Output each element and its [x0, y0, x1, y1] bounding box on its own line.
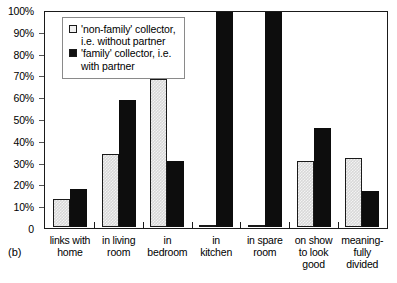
- y-axis-tick-label: 30%: [14, 159, 34, 169]
- bar: [314, 128, 331, 227]
- x-axis-category-label: on show to look good: [289, 234, 338, 270]
- x-axis-category-label: links with home: [46, 234, 95, 270]
- group-separator-tick: [338, 222, 339, 228]
- bar: [70, 189, 87, 228]
- bar: [297, 161, 314, 228]
- legend-swatch-light: [69, 25, 77, 33]
- y-axis-tick-label: 50%: [14, 115, 34, 125]
- x-axis-labels: links with homein living roomin bedroomi…: [46, 234, 387, 270]
- y-axis-tick-label: 60%: [14, 93, 34, 103]
- bar: [150, 79, 167, 228]
- bar: [119, 100, 136, 227]
- legend-item: 'non-family' collector, i.e. without par…: [69, 23, 176, 47]
- bar-chart: 100%90%80%70%60%50%40%30%20%10%0 'non-fa…: [0, 0, 397, 283]
- group-separator-tick: [94, 222, 95, 228]
- y-axis-tick-label: 70%: [14, 71, 34, 81]
- legend-label: 'family' collector, i.e. with partner: [81, 47, 171, 71]
- x-axis-category-label: in living room: [94, 234, 143, 270]
- legend-label: 'non-family' collector, i.e. without par…: [81, 23, 176, 47]
- y-axis-tick-label: 90%: [14, 28, 34, 38]
- x-axis-category-label: in bedroom: [143, 234, 192, 270]
- bar: [345, 158, 362, 227]
- bar: [167, 161, 184, 228]
- bar: [199, 225, 216, 227]
- bar-group: [240, 12, 289, 227]
- bar: [53, 199, 70, 227]
- bar: [102, 154, 119, 227]
- bar: [265, 12, 282, 227]
- bar-group: [338, 12, 387, 227]
- chart-legend: 'non-family' collector, i.e. without par…: [62, 17, 185, 79]
- bar-group: [192, 12, 241, 227]
- bar-group: [289, 12, 338, 227]
- y-axis-tick-label: 80%: [14, 50, 34, 60]
- y-axis-tick-label: 20%: [14, 180, 34, 190]
- group-separator-tick: [192, 222, 193, 228]
- panel-label: (b): [8, 246, 21, 258]
- y-axis-tick-label: 40%: [14, 137, 34, 147]
- bar: [248, 225, 265, 227]
- group-separator-tick: [143, 222, 144, 228]
- y-axis-tick-label: 0: [28, 224, 34, 234]
- legend-item: 'family' collector, i.e. with partner: [69, 47, 176, 71]
- legend-swatch-dark: [69, 49, 77, 57]
- group-separator-tick: [240, 222, 241, 228]
- y-axis-tick-label: 100%: [8, 6, 34, 16]
- y-axis: 100%90%80%70%60%50%40%30%20%10%0: [0, 11, 38, 229]
- group-separator-tick: [289, 222, 290, 228]
- y-axis-tick-label: 10%: [14, 202, 34, 212]
- x-axis-category-label: meaning- fully divided: [338, 234, 387, 270]
- x-axis-category-label: in kitchen: [192, 234, 241, 270]
- bar: [216, 12, 233, 227]
- x-axis-category-label: in spare room: [240, 234, 289, 270]
- bar: [362, 191, 379, 228]
